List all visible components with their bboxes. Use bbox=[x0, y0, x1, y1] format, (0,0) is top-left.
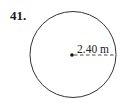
radius-label: 2.40 m bbox=[77, 43, 109, 55]
center-point bbox=[70, 53, 74, 57]
circle-diagram: 2.40 m bbox=[0, 0, 126, 106]
